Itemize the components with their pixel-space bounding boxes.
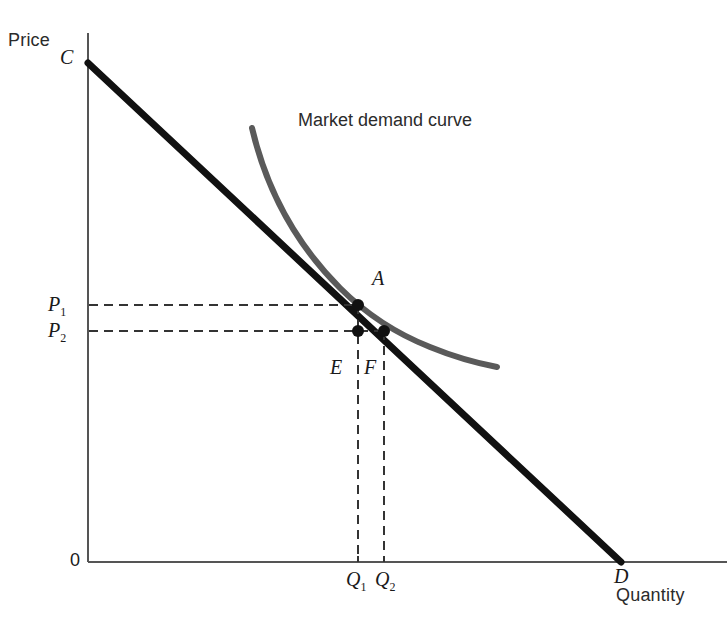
point-label-e: E — [330, 356, 342, 379]
y-axis-label: Price — [8, 30, 50, 51]
x-tick-q1: Q1 — [346, 568, 366, 595]
point-label-f: F — [364, 356, 376, 379]
y-tick-p2: P2 — [48, 319, 66, 346]
origin-label: 0 — [70, 550, 80, 571]
x-axis-label: Quantity — [616, 585, 685, 606]
x-tick-q1-sub: 1 — [360, 580, 366, 594]
point-f-marker — [378, 325, 390, 337]
market-demand-curve-label: Market demand curve — [298, 110, 472, 131]
x-tick-q1-text: Q — [346, 568, 360, 590]
y-tick-p2-sub: 2 — [60, 331, 66, 345]
firm-demand-line — [88, 63, 621, 562]
y-tick-p1: P1 — [48, 293, 66, 320]
y-tick-p2-text: P — [48, 319, 60, 341]
point-label-a: A — [372, 267, 384, 290]
y-tick-p1-sub: 1 — [60, 305, 66, 319]
point-label-d: D — [614, 565, 628, 588]
point-label-c: C — [60, 46, 73, 69]
chart-canvas — [0, 0, 727, 629]
x-tick-q2-text: Q — [375, 568, 389, 590]
x-tick-q2-sub: 2 — [389, 580, 395, 594]
x-tick-q2: Q2 — [375, 568, 395, 595]
economics-demand-chart: Price Quantity 0 Market demand curve C D… — [0, 0, 727, 629]
y-tick-p1-text: P — [48, 293, 60, 315]
point-e-marker — [352, 325, 364, 337]
point-a-marker — [352, 299, 364, 311]
